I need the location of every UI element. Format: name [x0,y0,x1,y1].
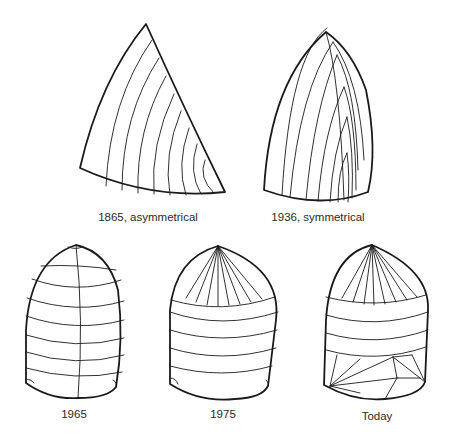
sail-1865-label: 1865, asymmetrical [98,211,198,223]
sail-1936-drawing [264,28,373,202]
sail-1965-label: 1965 [61,408,87,420]
sail-1936-label: 1936, symmetrical [271,211,364,223]
sail-today-label: Today [362,410,393,422]
sail-1865-drawing [80,24,225,195]
sail-today-drawing [324,245,428,399]
sail-evolution-diagram [0,0,450,438]
sail-1965-drawing [26,245,124,398]
sail-1975-drawing [170,246,278,400]
sail-1975-label: 1975 [210,408,236,420]
